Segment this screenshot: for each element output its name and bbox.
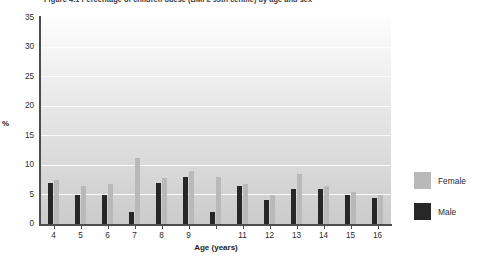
x-tick-mark [297, 225, 298, 229]
x-axis-title: Age (years) [0, 243, 432, 252]
x-tick-label: 12 [258, 231, 282, 240]
gridline [40, 165, 391, 166]
bar-female-age-10 [216, 177, 221, 224]
x-tick-mark [378, 225, 379, 229]
x-tick-mark [216, 225, 217, 229]
x-tick-label: 16 [366, 231, 390, 240]
bar-male-age-8 [156, 183, 161, 224]
bar-male-age-14 [318, 189, 323, 224]
chart-legend: Female Male [414, 172, 484, 234]
x-tick-label: 11 [231, 231, 255, 240]
bar-male-age-11 [237, 186, 242, 224]
x-tick-mark [135, 225, 136, 229]
figure-caption-clipped: Figure 4.1 Percentage of children obese … [0, 0, 487, 5]
y-tick-label: 35 [8, 14, 34, 22]
bar-female-age-14 [324, 186, 329, 224]
gridline [40, 18, 391, 19]
x-tick-mark [243, 225, 244, 229]
x-tick-mark [351, 225, 352, 229]
figure-caption-text: Figure 4.1 Percentage of children obese … [44, 0, 312, 4]
x-tick-label: 4 [42, 231, 66, 240]
legend-item-male: Male [414, 203, 484, 220]
legend-label-female: Female [438, 176, 466, 186]
bar-male-age-4 [48, 183, 53, 224]
bar-male-age-12 [264, 200, 269, 224]
bar-female-age-4 [54, 180, 59, 224]
x-tick-mark [54, 225, 55, 229]
bar-female-age-5 [81, 186, 86, 224]
bar-female-age-8 [162, 178, 167, 224]
bar-female-age-16 [378, 195, 383, 224]
x-tick-label: 14 [312, 231, 336, 240]
x-tick-label: 7 [123, 231, 147, 240]
legend-item-female: Female [414, 172, 484, 189]
bar-male-age-6 [102, 195, 107, 224]
y-axis-title: % [2, 119, 9, 128]
y-tick-label: 30 [8, 43, 34, 51]
bar-female-age-11 [243, 184, 248, 224]
bar-male-age-15 [345, 195, 350, 224]
y-tick-label: 25 [8, 73, 34, 81]
bar-male-age-16 [372, 198, 377, 224]
bar-female-age-6 [108, 184, 113, 224]
bar-male-age-5 [75, 195, 80, 224]
gridline [40, 135, 391, 136]
x-tick-mark [162, 225, 163, 229]
gridline [40, 47, 391, 48]
bar-female-age-7 [135, 158, 140, 225]
y-tick-label: 15 [8, 132, 34, 140]
x-tick-mark [108, 225, 109, 229]
x-tick-label: 15 [339, 231, 363, 240]
bar-female-age-12 [270, 195, 275, 224]
x-tick-label: 8 [150, 231, 174, 240]
y-tick-label: 20 [8, 102, 34, 110]
bar-female-age-13 [297, 174, 302, 224]
x-tick-label: 13 [285, 231, 309, 240]
x-tick-mark [270, 225, 271, 229]
y-axis-line [39, 16, 41, 226]
figure-container: Figure 4.1 Percentage of children obese … [0, 0, 487, 261]
bar-male-age-9 [183, 177, 188, 224]
gridline [40, 76, 391, 77]
bar-female-age-9 [189, 171, 194, 224]
x-tick-label: 6 [96, 231, 120, 240]
legend-label-male: Male [438, 207, 456, 217]
gridline [40, 106, 391, 107]
y-tick-label: 10 [8, 161, 34, 169]
x-tick-label: 5 [69, 231, 93, 240]
bar-female-age-15 [351, 192, 356, 224]
bar-male-age-7 [129, 212, 134, 224]
plot-area [40, 18, 391, 224]
bar-male-age-10 [210, 212, 215, 224]
x-tick-label: 9 [177, 231, 201, 240]
y-tick-label: 5 [8, 191, 34, 199]
x-tick-mark [81, 225, 82, 229]
x-tick-mark [324, 225, 325, 229]
y-tick-label: 0 [8, 220, 34, 228]
legend-swatch-female-icon [414, 172, 431, 189]
x-tick-mark [189, 225, 190, 229]
legend-swatch-male-icon [414, 203, 431, 220]
y-axis-tick-labels: 05101520253035 [4, 0, 34, 261]
bar-male-age-13 [291, 189, 296, 224]
